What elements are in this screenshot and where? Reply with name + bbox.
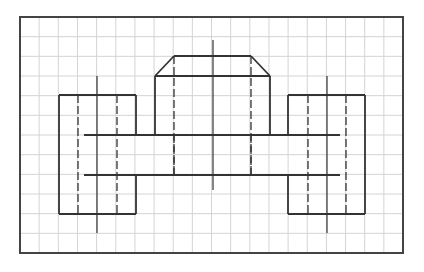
outline-line <box>155 56 174 76</box>
outline-line <box>251 56 270 76</box>
technical-drawing <box>0 0 424 272</box>
